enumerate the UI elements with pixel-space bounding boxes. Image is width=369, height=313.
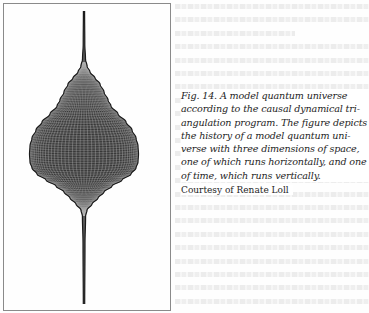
ghost-text-line (175, 272, 369, 277)
ghost-text-line (175, 205, 369, 210)
figure-frame (3, 3, 171, 311)
book-page: Fig. 14. A model quantum universe accord… (0, 0, 369, 313)
figure-credit: Courtesy of Renate Loll (181, 185, 293, 195)
ghost-text-line (175, 299, 369, 304)
ghost-text-line (175, 44, 369, 49)
caption-line: of time, which runs vertically. (181, 169, 369, 182)
ghost-text-line (175, 58, 369, 63)
ghost-text-line (175, 259, 369, 264)
caption-line: angulation program. The figure depicts (181, 116, 369, 129)
figure-caption: Fig. 14. A model quantum universe accord… (181, 89, 369, 182)
ghost-text-line (175, 71, 369, 76)
caption-line: one of which runs horizontally, and one (181, 155, 369, 168)
quantum-universe-illustration (4, 4, 170, 310)
caption-line: verse with three dimensions of space, (181, 142, 369, 155)
ghost-text-line (175, 31, 295, 36)
caption-line: the history of a model quantum uni- (181, 129, 369, 142)
caption-line: Fig. 14. A model quantum universe (181, 89, 369, 102)
ghost-text-line (175, 245, 369, 250)
ghost-text-line (175, 17, 369, 22)
ghost-text-line (175, 285, 369, 290)
ghost-text-line (175, 4, 369, 9)
caption-line: according to the causal dynamical tri- (181, 102, 369, 115)
ghost-text-line (175, 218, 369, 223)
ghost-text-line (175, 232, 369, 237)
